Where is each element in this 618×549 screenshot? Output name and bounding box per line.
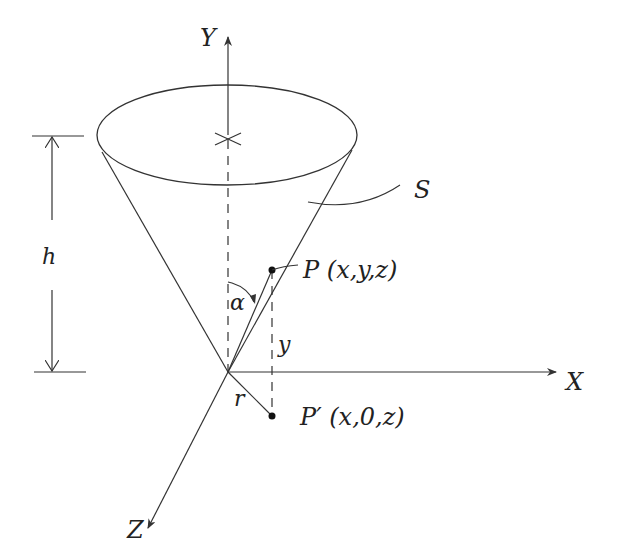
y-axis-label: Y xyxy=(200,26,216,50)
height-label: h xyxy=(42,246,56,268)
cone-diagram: Y X Z S h α y r P (x,y,z) P′ (x,0,z) xyxy=(0,0,618,549)
surface-label: S xyxy=(414,178,430,202)
cone-top-ellipse xyxy=(97,85,357,185)
surface-leader xyxy=(308,185,400,205)
point-p-prime-label: P′ (x,0,z) xyxy=(300,405,405,429)
alpha-label: α xyxy=(230,292,245,314)
x-axis-label: X xyxy=(566,370,583,394)
point-p-name: P xyxy=(303,256,319,284)
generator-line xyxy=(228,270,272,372)
point-p-label: P (x,y,z) xyxy=(303,258,397,282)
point-p-prime-name: P′ xyxy=(300,403,322,431)
point-p-prime-coords: (x,0,z) xyxy=(329,403,404,431)
radius-label: r xyxy=(234,388,245,410)
y-distance-label: y xyxy=(278,334,290,356)
point-p-coords: (x,y,z) xyxy=(327,256,398,284)
z-axis-label: Z xyxy=(127,518,144,542)
point-p-prime-dot xyxy=(269,413,276,420)
z-axis xyxy=(148,372,228,528)
